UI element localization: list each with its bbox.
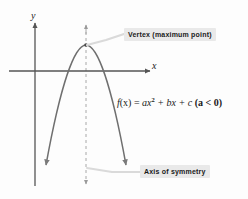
formula-condition: (a < 0) — [192, 97, 222, 108]
parabola-left-branch — [46, 45, 86, 165]
formula-term-b: + bx — [155, 97, 176, 108]
function-formula: f(x) = ax2 + bx + c (a < 0) — [117, 96, 222, 108]
y-axis-label: y — [31, 10, 35, 21]
axis-of-symmetry-callout-label: Axis of symmetry — [140, 165, 210, 178]
formula-term-a: ax — [142, 97, 151, 108]
formula-equals: = — [131, 97, 142, 108]
x-axis-label: x — [152, 60, 156, 71]
parabola-figure: y x Vertex (maximum point) Axis of symme… — [0, 0, 248, 199]
axis-of-symmetry-leader-line — [87, 168, 140, 172]
formula-argument: (x) — [120, 97, 132, 108]
vertex-leader-line — [87, 34, 124, 45]
vertex-callout-label: Vertex (maximum point) — [124, 28, 216, 41]
formula-term-c: + c — [176, 97, 192, 108]
